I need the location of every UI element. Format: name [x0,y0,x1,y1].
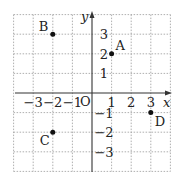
y-tick-label: −3 [94,145,113,160]
x-tick-label: −2 [43,95,62,110]
point-dot-icon [109,51,114,56]
x-tick-label: −1 [63,95,82,110]
x-tick-label: 3 [147,95,155,110]
y-axis-arrow-icon [90,11,95,18]
point-dot-icon [148,110,153,115]
y-axis-label: y [80,9,89,24]
x-tick-label: −3 [24,95,43,110]
point-label: A [115,38,126,53]
y-tick-label: −2 [94,125,113,140]
coordinate-plane: x y O −3−2−1123321−1−2−3 ABCD [0,0,180,180]
y-tick-label: 3 [100,27,108,42]
x-tick-label: 2 [127,95,135,110]
point-label: C [40,133,50,148]
point-dot-icon [50,130,55,135]
y-tick-label: 1 [100,66,108,81]
point-A: A [109,38,126,57]
point-label: B [39,19,49,34]
x-axis-label: x [163,95,171,110]
y-tick-label: 2 [100,47,108,62]
y-tick-label: −1 [94,106,113,121]
point-dot-icon [50,32,55,37]
point-label: D [155,114,165,129]
